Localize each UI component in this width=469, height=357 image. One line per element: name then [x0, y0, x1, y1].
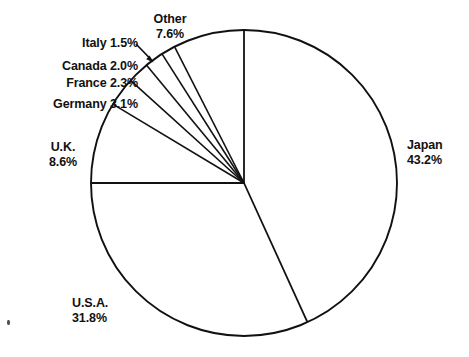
slice-label-japan-value: 43.2%: [407, 153, 467, 168]
slice-label-usa-value: 31.8%: [72, 311, 138, 326]
slice-label-germany: Germany 3.1%: [14, 97, 138, 112]
scan-artifact-speck: [7, 320, 10, 325]
slice-label-other: Other 7.6%: [138, 12, 202, 41]
pie-chart: Other 7.6% Italy 1.5% Canada 2.0% France…: [0, 0, 469, 357]
slice-label-japan-name: Japan: [407, 138, 467, 153]
slice-label-italy-text: Italy 1.5%: [48, 36, 138, 51]
slice-label-uk-name: U.K.: [35, 140, 91, 155]
pie-chart-graphic: [0, 0, 469, 357]
slice-label-france: France 2.3%: [28, 76, 138, 91]
slice-label-uk-value: 8.6%: [35, 155, 91, 170]
slice-label-other-name: Other: [138, 12, 202, 27]
slice-label-usa: U.S.A. 31.8%: [72, 296, 138, 325]
slice-label-germany-text: Germany 3.1%: [14, 97, 138, 112]
slice-label-japan: Japan 43.2%: [407, 138, 467, 167]
slice-label-usa-name: U.S.A.: [72, 296, 138, 311]
slice-label-italy: Italy 1.5%: [48, 36, 138, 51]
slice-label-other-value: 7.6%: [138, 27, 202, 42]
slice-label-uk: U.K. 8.6%: [35, 140, 91, 169]
slice-label-canada: Canada 2.0%: [28, 59, 138, 74]
slice-label-france-text: France 2.3%: [28, 76, 138, 91]
italy-leader-arrow: [136, 44, 154, 63]
slice-label-canada-text: Canada 2.0%: [28, 59, 138, 74]
